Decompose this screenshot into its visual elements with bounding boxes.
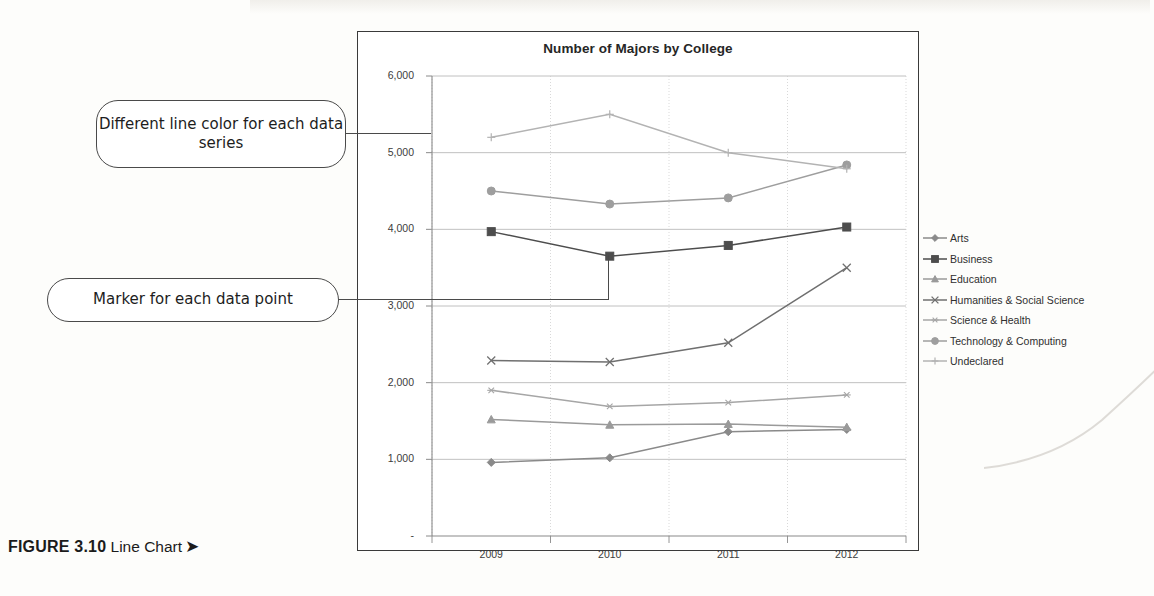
- y-axis-tick-label: 2,000: [366, 376, 414, 388]
- legend-item-label: Humanities & Social Science: [950, 294, 1084, 306]
- legend-marker-diamond-icon: [922, 232, 948, 244]
- legend-marker-plus-icon: [922, 355, 948, 367]
- scan-artifact-top: [250, 0, 1150, 14]
- chart-legend: ArtsBusinessEducationHumanities & Social…: [922, 228, 1142, 372]
- callout-marker: Marker for each data point: [47, 278, 339, 322]
- legend-item-label: Science & Health: [950, 314, 1031, 326]
- legend-marker-circle-icon: [922, 335, 948, 347]
- x-axis-tick-label: 2011: [693, 548, 763, 560]
- callout-line-color: Different line color for each data serie…: [96, 100, 346, 168]
- chart-series-humanities-social-science: [487, 264, 851, 366]
- figure-caption: FIGURE 3.10 Line Chart➤: [8, 536, 199, 557]
- y-axis-tick-label: -: [366, 529, 414, 541]
- y-axis-tick-label: 4,000: [366, 222, 414, 234]
- x-axis-tick-label: 2012: [812, 548, 882, 560]
- figure-caption-text: Line Chart: [111, 538, 183, 555]
- x-axis-tick-label: 2009: [456, 548, 526, 560]
- chart-series-science-health: [487, 388, 851, 410]
- legend-marker-asterisk-icon: [922, 314, 948, 326]
- legend-item[interactable]: Undeclared: [922, 351, 1142, 372]
- y-axis-tick-label: 6,000: [366, 69, 414, 81]
- legend-marker-x-icon: [922, 294, 948, 306]
- x-axis-tick-label: 2010: [575, 548, 645, 560]
- y-axis-tick-label: 1,000: [366, 452, 414, 464]
- legend-marker-triangle-icon: [922, 273, 948, 285]
- callout-leader-line-color: [344, 133, 431, 134]
- scan-artifact-corner: [984, 356, 1154, 476]
- callout-leader-line-marker: [337, 299, 609, 300]
- legend-marker-square-icon: [922, 253, 948, 265]
- legend-item-label: Technology & Computing: [950, 335, 1067, 347]
- legend-item-label: Arts: [950, 232, 969, 244]
- figure-label: FIGURE 3.10: [8, 538, 106, 555]
- legend-item[interactable]: Science & Health: [922, 310, 1142, 331]
- legend-item[interactable]: Arts: [922, 228, 1142, 249]
- legend-item-label: Business: [950, 253, 993, 265]
- y-axis-tick-label: 3,000: [366, 299, 414, 311]
- chart-series-education: [487, 415, 851, 430]
- figure-arrow-icon: ➤: [185, 537, 199, 556]
- legend-item[interactable]: Business: [922, 249, 1142, 270]
- legend-item[interactable]: Humanities & Social Science: [922, 290, 1142, 311]
- chart-container: Number of Majors by College -1,0002,0003…: [357, 31, 919, 551]
- callout-leader-riser: [608, 255, 610, 299]
- legend-item[interactable]: Technology & Computing: [922, 331, 1142, 352]
- legend-item[interactable]: Education: [922, 269, 1142, 290]
- y-axis-tick-label: 5,000: [366, 146, 414, 158]
- line-chart-plot: [358, 32, 918, 550]
- legend-item-label: Education: [950, 273, 997, 285]
- legend-item-label: Undeclared: [950, 355, 1004, 367]
